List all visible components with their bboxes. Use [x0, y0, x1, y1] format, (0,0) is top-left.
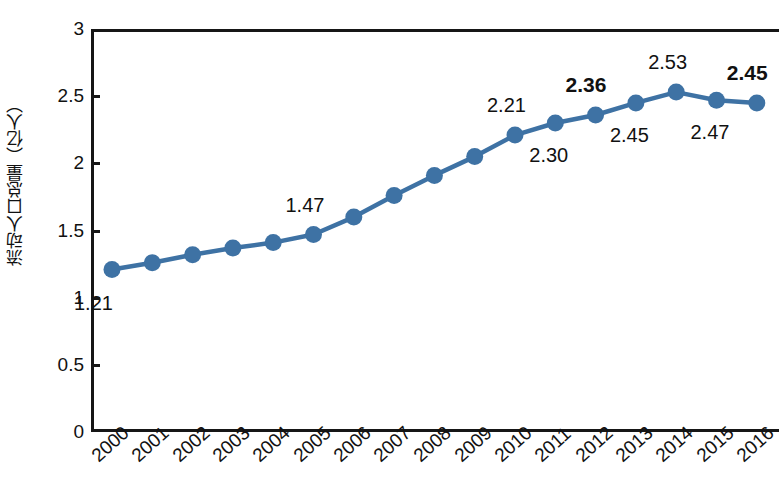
x-axis-tick-label: 2010 [491, 423, 535, 465]
x-axis-tick-label: 2014 [652, 423, 696, 465]
x-axis-tick-label: 2005 [290, 423, 334, 465]
x-axis-tick-label: 2011 [531, 424, 574, 465]
x-axis-tick-label: 2016 [733, 423, 777, 465]
x-axis-tick-label: 2001 [128, 423, 172, 465]
x-axis-tick-label: 2015 [693, 423, 737, 465]
y-axis-tick-mark [91, 230, 100, 233]
y-axis-tick-mark [91, 364, 100, 367]
x-axis-tick-label: 2004 [249, 423, 293, 465]
x-axis-tick-label: 2013 [612, 423, 656, 465]
x-axis-tick-label: 2009 [451, 423, 495, 465]
x-axis-tick-label: 2002 [169, 423, 213, 465]
x-axis-tick-label: 2008 [410, 423, 454, 465]
x-axis-tick-label: 2012 [572, 423, 616, 465]
x-axis-tick-label: 2000 [88, 423, 132, 465]
y-axis-tick-mark [91, 297, 100, 300]
x-axis-tick-label: 2006 [330, 423, 374, 465]
line-chart: 流动人口总量（亿人） 32.521.510.50 1.211.472.212.3… [0, 0, 779, 495]
y-axis-tick-mark [91, 95, 100, 98]
x-axis-tick-labels: 2000200120022003200420052006200720082009… [0, 0, 779, 495]
x-axis-tick-label: 2003 [209, 423, 253, 465]
x-axis-tick-label: 2007 [370, 423, 414, 465]
y-axis-tick-mark [91, 162, 100, 165]
